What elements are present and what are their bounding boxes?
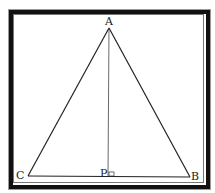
label-a: A — [104, 15, 114, 28]
label-c: C — [16, 169, 24, 182]
right-angle-marker — [109, 172, 114, 176]
side-ab — [109, 28, 190, 177]
altitude-ap — [108, 28, 109, 176]
triangle-diagram: A C B P — [0, 0, 215, 193]
side-ac — [28, 28, 109, 176]
label-b: B — [191, 170, 199, 183]
label-p: P — [100, 167, 108, 180]
